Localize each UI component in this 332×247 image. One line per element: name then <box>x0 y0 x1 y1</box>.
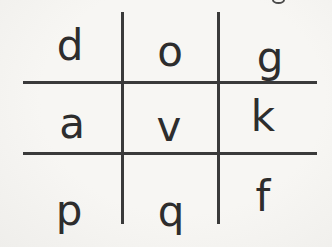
letter-cell-d: d <box>57 25 84 67</box>
grid-vertical-line-1 <box>121 12 124 224</box>
grid-horizontal-line-2 <box>23 152 317 155</box>
letter-cell-p: p <box>56 190 83 232</box>
letter-cell-o: o <box>157 31 183 73</box>
letter-cell-q: q <box>158 191 185 233</box>
letter-cell-f: f <box>256 176 271 218</box>
letter-cell-a: a <box>59 103 85 145</box>
letter-cell-g: g <box>257 37 284 79</box>
letter-cell-k: k <box>251 96 275 138</box>
cropped-glyph-remnant <box>272 0 285 4</box>
grid-vertical-line-2 <box>217 12 220 224</box>
letter-grid: d o g a v k p q f <box>0 0 332 247</box>
letter-cell-v: v <box>157 106 182 148</box>
